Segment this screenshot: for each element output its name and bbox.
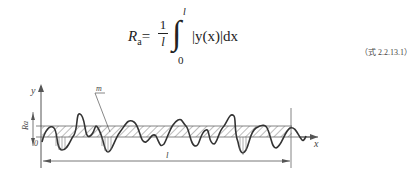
y-axis-label: y [30, 85, 36, 96]
origin-label: 0 [34, 139, 38, 148]
ra-symbol: R [128, 28, 137, 44]
ra-label: Ra [21, 121, 30, 131]
integral-sign: ∫ [172, 8, 181, 58]
mean-line-label: m [96, 84, 102, 93]
integral-lower-limit: 0 [178, 54, 184, 66]
equals-sign: = [142, 28, 150, 44]
length-label: l [166, 150, 169, 160]
ra-formula: Ra= 1 l ∫ l 0 |y(x)|dx [128, 8, 328, 68]
equation-number: （式 2.2.13.1） [360, 46, 412, 57]
ra-band [42, 126, 292, 137]
formula-lhs: Ra= [128, 28, 150, 47]
fraction: 1 l [158, 18, 168, 49]
roughness-profile-diagram: y x m Ra 0 l [0, 80, 420, 185]
fraction-numerator: 1 [158, 18, 168, 32]
fraction-denominator: l [158, 35, 168, 49]
y-axis-arrow-icon [38, 84, 44, 92]
integral-upper-limit: l [183, 6, 186, 17]
x-axis-label: x [313, 138, 319, 149]
integrand: |y(x)|dx [192, 28, 238, 45]
